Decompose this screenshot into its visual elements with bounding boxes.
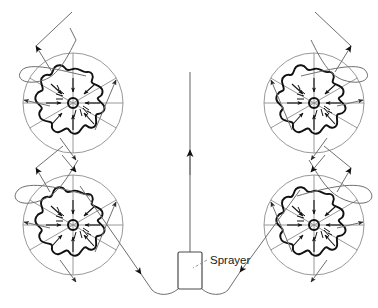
sprayer-label: Sprayer xyxy=(210,254,250,266)
sprayer[interactable] xyxy=(178,252,202,289)
figure-canvas: Sprayer xyxy=(0,0,378,308)
path-sprayer-to-bottom-left xyxy=(80,186,178,294)
path-left-uturn xyxy=(15,146,90,203)
sprayer-body[interactable] xyxy=(178,252,202,289)
path-exit-top-right xyxy=(301,12,368,82)
tree-top-right xyxy=(264,53,364,160)
sprayer-path-diagram: Sprayer xyxy=(0,0,378,308)
path-right-uturn xyxy=(297,146,372,203)
tree-top-left xyxy=(23,53,123,160)
